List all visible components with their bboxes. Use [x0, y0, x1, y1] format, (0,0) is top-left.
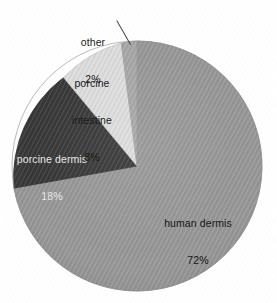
pie-slices [12, 41, 262, 291]
pie-chart-canvas [0, 0, 277, 303]
pie-shading [12, 41, 262, 291]
pie-chart-figure: human dermis 72% porcine dermis 18% porc… [0, 0, 277, 303]
other-leader-line [117, 21, 131, 45]
other-leader-line-path [117, 21, 131, 45]
